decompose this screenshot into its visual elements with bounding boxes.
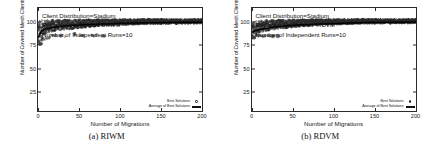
legend-b: Best Solutions Average of Best Solutions [362,99,414,110]
x-tick-mark-a-200 [202,108,203,111]
annotation-block-b: Client Distribution=Stadium Replacement … [256,11,346,39]
x-tick-label-b-0: 0 [250,113,253,119]
figure-two-panel: Number of Covered Mesh Clients[%] 100 75… [0,0,427,152]
panel-riwm: Number of Covered Mesh Clients[%] 100 75… [0,0,214,152]
y-tick-label-a-25: 25 [30,89,36,95]
y-axis-label-a: Number of Covered Mesh Clients[%] [19,0,25,88]
y-tick-label-b-75: 75 [243,42,249,48]
y-tick-label-b-50: 50 [243,66,249,72]
annotation-replacement-method-a: Replacement Method=RIWM [42,20,132,29]
legend-item-average-b: Average of Best Solutions [362,104,414,110]
circle-marker-icon-b [406,100,415,103]
annotation-replacement-method-b: Replacement Method=RDVM [256,20,346,29]
annotation-client-distribution-b: Client Distribution=Stadium [256,11,346,20]
line-marker-icon-a [192,106,201,108]
legend-label-average-a: Average of Best Solutions [149,104,190,110]
caption-b: (b) RDVM [214,131,427,141]
x-tick-label-a-0: 0 [36,113,39,119]
x-tick-label-a-100: 100 [115,113,124,119]
plot-area-a: 100 75 50 25 0 50 100 150 200 [37,7,203,112]
annotation-client-distribution-a: Client Distribution=Stadium [42,11,132,20]
annotation-block-a: Client Distribution=Stadium Replacement … [42,11,132,39]
legend-item-average-a: Average of Best Solutions [149,104,201,110]
caption-a: (a) RIWM [0,131,214,141]
y-tick-label-b-100: 100 [240,19,249,25]
y-tick-label-b-25: 25 [243,89,249,95]
circle-marker-icon-a [192,100,201,103]
x-tick-label-a-200: 200 [197,113,206,119]
x-tick-label-b-100: 100 [329,113,338,119]
x-tick-label-b-200: 200 [411,113,420,119]
panel-rdvm: Number of Covered Mesh Clients[%] 100 75… [214,0,427,152]
legend-label-average-b: Average of Best Solutions [362,104,403,110]
y-tick-label-a-75: 75 [30,42,36,48]
legend-a: Best Solutions Average of Best Solutions [149,99,201,110]
x-tick-mark-b-200-top [416,8,417,11]
y-tick-label-a-100: 100 [27,19,36,25]
plot-area-b: 100 75 50 25 0 50 100 150 200 [251,7,417,112]
annotation-independent-runs-b: Number of Independent Runs=10 [256,30,346,39]
annotation-independent-runs-a: Number of Independent Runs=10 [42,30,132,39]
y-axis-label-b: Number of Covered Mesh Clients[%] [233,0,239,88]
x-tick-label-a-150: 150 [156,113,165,119]
x-tick-label-b-150: 150 [370,113,379,119]
x-tick-mark-b-200 [416,108,417,111]
line-marker-icon-b [406,106,415,108]
x-tick-label-b-50: 50 [289,113,295,119]
y-tick-label-a-50: 50 [30,66,36,72]
x-tick-label-a-50: 50 [76,113,82,119]
x-axis-label-b: Number of Migrations [251,120,417,127]
x-axis-label-a: Number of Migrations [37,120,203,127]
x-tick-mark-a-200-top [202,8,203,11]
